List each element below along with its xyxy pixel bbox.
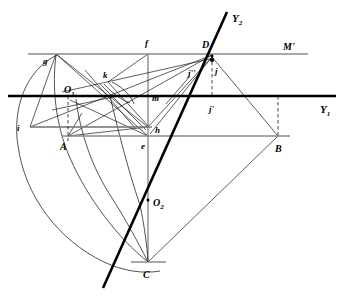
dot-O2	[147, 199, 150, 202]
label-point-h: h	[155, 125, 160, 135]
label-point-D: D	[201, 39, 209, 50]
line-h-A	[68, 127, 148, 136]
label-point-k: k	[103, 70, 108, 80]
line-left-cross	[52, 96, 118, 110]
label-group: Y2 Y1 M' g f D k O1 i m h A e B O2 C j j…	[17, 12, 330, 280]
arc-group	[17, 55, 160, 272]
label-line-m-prime: M'	[282, 41, 295, 52]
geometric-figure-root: Y2 Y1 M' g f D k O1 i m h A e B O2 C j j…	[0, 0, 343, 300]
label-point-f: f	[145, 38, 149, 48]
label-point-B: B	[274, 143, 282, 154]
dot-D	[211, 55, 214, 58]
dot-j	[210, 58, 214, 62]
label-point-g: g	[42, 56, 48, 66]
arc-o1-to-c	[76, 99, 148, 262]
label-point-O2: O2	[153, 197, 164, 211]
label-axis-y1: Y1	[320, 103, 330, 118]
line-f-k	[108, 54, 148, 82]
big-left-arc	[17, 55, 160, 272]
label-point-A: A	[59, 141, 67, 152]
label-point-i: i	[17, 123, 20, 133]
label-point-m: m	[152, 93, 159, 103]
label-point-j: j	[213, 66, 218, 76]
line-k-lower	[100, 84, 146, 130]
label-point-C: C	[143, 269, 150, 280]
line-A-O1	[68, 113, 82, 136]
label-point-j-doubleprime: j''	[186, 68, 196, 78]
label-point-e: e	[141, 141, 145, 151]
label-point-j-prime: j'	[207, 104, 215, 114]
construction-diagram: Y2 Y1 M' g f D k O1 i m h A e B O2 C j j…	[0, 0, 343, 300]
label-axis-y2: Y2	[232, 12, 243, 27]
line-C-B	[148, 136, 278, 262]
line-cross-mid	[85, 70, 135, 128]
